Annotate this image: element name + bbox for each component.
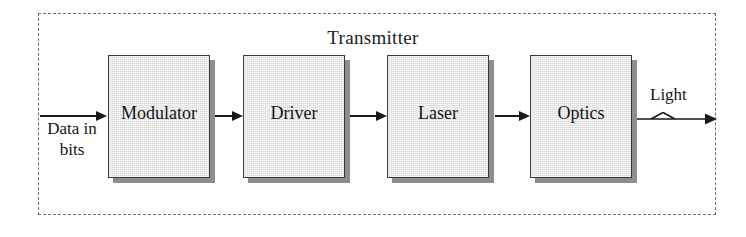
enclosure-title: Transmitter xyxy=(0,27,746,49)
connector-shaft xyxy=(495,115,521,117)
block-optics[interactable]: Optics xyxy=(530,55,632,178)
light-arrow-head xyxy=(705,114,717,125)
block-laser-label: Laser xyxy=(388,103,488,124)
connector-arrow-head xyxy=(519,111,530,121)
zigzag-ray-icon xyxy=(637,113,707,120)
block-driver[interactable]: Driver xyxy=(243,55,345,178)
connector-shaft xyxy=(350,115,378,117)
connector-driver-to-laser xyxy=(350,110,388,122)
block-modulator[interactable]: Modulator xyxy=(108,55,210,178)
input-label-line1: Data in xyxy=(33,118,111,139)
connector-arrow-head xyxy=(232,111,243,121)
transmitter-block-diagram: Transmitter Data in bits Modulator Drive… xyxy=(0,0,746,237)
connector-arrow-head xyxy=(376,111,387,121)
connector-modulator-to-driver xyxy=(215,110,244,122)
input-arrow-shaft xyxy=(40,115,98,117)
input-label-line2: bits xyxy=(33,139,111,160)
light-output-label: Light xyxy=(650,85,687,105)
block-laser[interactable]: Laser xyxy=(387,55,489,178)
connector-laser-to-optics xyxy=(495,110,531,122)
light-output-arrow xyxy=(637,108,719,130)
input-label: Data in bits xyxy=(33,118,111,160)
block-optics-label: Optics xyxy=(531,103,631,124)
block-modulator-label: Modulator xyxy=(101,103,217,124)
block-driver-label: Driver xyxy=(244,103,344,124)
